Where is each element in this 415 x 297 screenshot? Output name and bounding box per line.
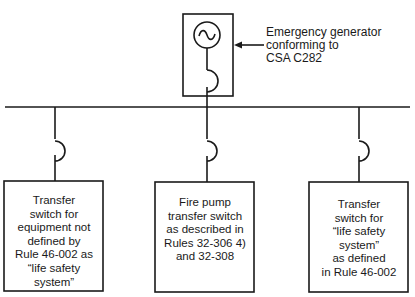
branch-label-line: as defined [312,252,406,266]
branch-label-line: as described in [158,223,252,237]
branch-label-line: Transfer [312,198,406,212]
branch-label-line: switch for [312,212,406,226]
branch-label-line: “life safety [312,225,406,239]
generator-label: Emergency generator conforming to CSA C2… [266,26,381,65]
branch-label-line: “life safety [7,262,101,276]
branch-label-line: Transfer [7,194,101,208]
branch-left-label: Transfer switch for equipment not define… [4,194,104,289]
branch-middle-label: Fire pump transfer switch as described i… [155,196,255,264]
branch-label-line: and 32-308 [158,250,252,264]
branch-label-line: in Rule 46-002 [312,266,406,280]
branch-label-line: system” [7,276,101,290]
branch-label-line: Fire pump [158,196,252,210]
branch-right-label: Transfer switch for “life safety system”… [309,198,409,280]
generator-breaker-icon [207,48,218,107]
branch-label-line: Rules 32-306 4) [158,237,252,251]
branch-label-line: switch for [7,208,101,222]
generator-label-line: CSA C282 [266,52,381,65]
generator-enclosure [183,14,233,96]
branch-left-breaker-icon [55,107,65,181]
ac-sine-icon [194,22,220,48]
branch-label-line: system” [312,239,406,253]
branch-label-line: defined by [7,235,101,249]
label-arrow-icon [234,42,264,49]
branch-label-line: transfer switch [158,210,252,224]
branch-label-line: Rule 46-002 as [7,248,101,262]
branch-right-breaker-icon [359,107,369,182]
branch-label-line: equipment not [7,221,101,235]
branch-middle-breaker-icon [207,107,217,182]
